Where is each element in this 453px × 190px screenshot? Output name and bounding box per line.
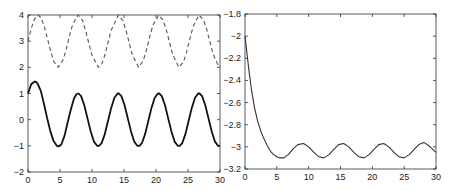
x-tick-label: 5 xyxy=(57,175,62,185)
y-tick-label: −2 xyxy=(14,167,24,177)
x-tick-label: 30 xyxy=(215,175,225,185)
x-tick-label: 30 xyxy=(431,172,441,182)
x-tick-label: 5 xyxy=(274,172,279,182)
y-tick-label: −2.6 xyxy=(223,98,241,108)
right-plot-ticks xyxy=(245,14,436,169)
right-plot-lines xyxy=(245,36,436,158)
y-tick-label: −1 xyxy=(14,141,24,151)
left-plot-lines xyxy=(28,15,220,146)
left-plot-axes-box xyxy=(28,15,220,172)
right-plot: 051015202530−3.2−3−2.8−2.6−2.4−2.2−2−1.8 xyxy=(223,9,441,182)
x-tick-label: 15 xyxy=(335,172,345,182)
figure: 051015202530−2−101234 051015202530−3.2−3… xyxy=(0,0,453,190)
y-tick-label: −2.2 xyxy=(223,53,241,63)
right-plot-tick-labels: 051015202530−3.2−3−2.8−2.6−2.4−2.2−2−1.8 xyxy=(223,9,441,182)
left-plot-tick-labels: 051015202530−2−101234 xyxy=(14,10,225,185)
solid-line-series xyxy=(245,36,436,158)
x-tick-label: 20 xyxy=(151,175,161,185)
x-tick-label: 15 xyxy=(119,175,129,185)
y-tick-label: 1 xyxy=(19,89,24,99)
left-plot: 051015202530−2−101234 xyxy=(14,10,225,185)
x-tick-label: 10 xyxy=(87,175,97,185)
x-tick-label: 0 xyxy=(242,172,247,182)
y-tick-label: −3 xyxy=(231,142,241,152)
dashed-line-series xyxy=(28,15,220,67)
y-tick-label: −2 xyxy=(231,31,241,41)
left-plot-ticks xyxy=(28,15,220,172)
y-tick-label: −3.2 xyxy=(223,164,241,174)
y-tick-label: −2.8 xyxy=(223,120,241,130)
y-tick-label: −2.4 xyxy=(223,75,241,85)
x-tick-label: 0 xyxy=(25,175,30,185)
x-tick-label: 10 xyxy=(304,172,314,182)
x-tick-label: 25 xyxy=(399,172,409,182)
x-tick-label: 25 xyxy=(183,175,193,185)
x-tick-label: 20 xyxy=(367,172,377,182)
y-tick-label: −1.8 xyxy=(223,9,241,19)
y-tick-label: 4 xyxy=(19,10,24,20)
y-tick-label: 0 xyxy=(19,115,24,125)
y-tick-label: 3 xyxy=(19,36,24,46)
right-plot-axes-box xyxy=(245,14,436,169)
y-tick-label: 2 xyxy=(19,62,24,72)
solid-line-series xyxy=(28,82,220,147)
